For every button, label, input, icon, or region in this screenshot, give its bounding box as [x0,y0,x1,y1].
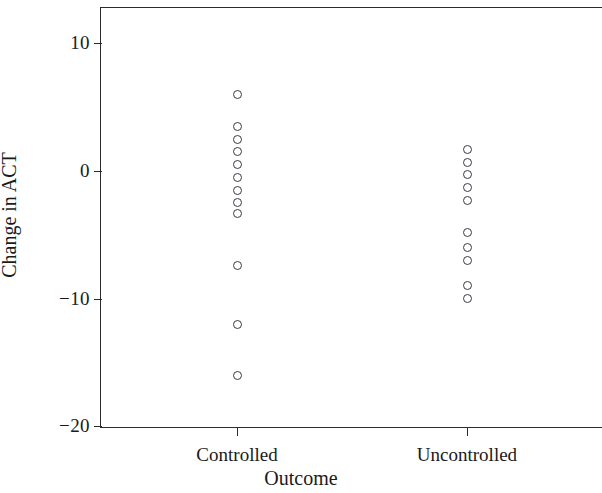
y-axis-tick [94,171,102,172]
x-axis-title: Outcome [181,468,421,488]
y-axis-tick-label: 0 [20,161,90,180]
data-point [463,196,472,205]
data-point [463,243,472,252]
data-point [463,294,472,303]
y-axis-tick [94,299,102,300]
y-axis-tick-label: 10 [20,33,90,52]
y-axis-tick-label: −20 [20,416,90,435]
data-point [463,256,472,265]
y-axis-tick [94,43,102,44]
data-point [463,183,472,192]
x-axis-category-label-uncontrolled: Uncontrolled [347,445,587,464]
data-point [233,173,242,182]
data-point [233,186,242,195]
y-axis-title: Change in ACT [0,115,19,315]
y-axis-tick-label: −10 [20,289,90,308]
data-point [233,122,242,131]
y-axis-tick [94,426,102,427]
data-point [233,198,242,207]
data-point [233,261,242,270]
x-axis-tick [467,427,468,436]
data-point [233,320,242,329]
data-point [233,135,242,144]
data-point [463,281,472,290]
data-point [233,371,242,380]
data-point [463,170,472,179]
data-point [233,90,242,99]
data-point [463,158,472,167]
data-point [463,145,472,154]
plot-frame: 100−10−20 ControlledUncontrolled [100,7,602,428]
x-axis-category-label-controlled: Controlled [117,445,357,464]
x-axis-tick [237,427,238,436]
data-point [233,209,242,218]
data-point [463,228,472,237]
data-point [233,160,242,169]
data-point [233,147,242,156]
figure-scatter-change-in-act: 100−10−20 ControlledUncontrolled Change … [0,0,602,493]
